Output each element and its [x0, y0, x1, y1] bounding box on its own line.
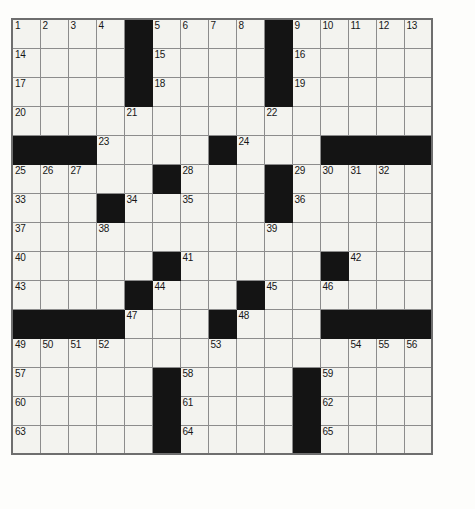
crossword-cell[interactable]: 41 — [180, 251, 208, 280]
crossword-cell[interactable] — [40, 425, 68, 454]
crossword-cell[interactable] — [96, 280, 124, 309]
crossword-cell[interactable] — [208, 251, 236, 280]
crossword-cell[interactable] — [404, 367, 432, 396]
crossword-cell[interactable] — [376, 222, 404, 251]
crossword-cell[interactable]: 34 — [124, 193, 152, 222]
crossword-cell[interactable] — [264, 367, 292, 396]
crossword-cell[interactable]: 50 — [40, 338, 68, 367]
crossword-cell[interactable]: 30 — [320, 164, 348, 193]
crossword-cell[interactable]: 60 — [12, 396, 40, 425]
crossword-cell[interactable] — [404, 280, 432, 309]
crossword-cell[interactable] — [404, 251, 432, 280]
crossword-cell[interactable] — [264, 251, 292, 280]
crossword-cell[interactable]: 64 — [180, 425, 208, 454]
crossword-cell[interactable] — [292, 222, 320, 251]
crossword-cell[interactable] — [376, 251, 404, 280]
crossword-cell[interactable] — [236, 106, 264, 135]
crossword-cell[interactable] — [292, 135, 320, 164]
crossword-cell[interactable]: 16 — [292, 48, 320, 77]
crossword-cell[interactable] — [264, 135, 292, 164]
crossword-cell[interactable]: 14 — [12, 48, 40, 77]
crossword-cell[interactable] — [376, 193, 404, 222]
crossword-cell[interactable]: 44 — [152, 280, 180, 309]
crossword-cell[interactable] — [320, 48, 348, 77]
crossword-cell[interactable] — [236, 77, 264, 106]
crossword-cell[interactable] — [68, 251, 96, 280]
crossword-cell[interactable]: 57 — [12, 367, 40, 396]
crossword-cell[interactable]: 56 — [404, 338, 432, 367]
crossword-cell[interactable] — [236, 425, 264, 454]
crossword-cell[interactable] — [236, 193, 264, 222]
crossword-cell[interactable] — [180, 48, 208, 77]
crossword-cell[interactable]: 61 — [180, 396, 208, 425]
crossword-cell[interactable]: 36 — [292, 193, 320, 222]
crossword-cell[interactable]: 48 — [236, 309, 264, 338]
crossword-cell[interactable] — [96, 367, 124, 396]
crossword-cell[interactable]: 37 — [12, 222, 40, 251]
crossword-cell[interactable]: 5 — [152, 19, 180, 48]
crossword-cell[interactable]: 58 — [180, 367, 208, 396]
crossword-cell[interactable] — [68, 193, 96, 222]
crossword-cell[interactable]: 51 — [68, 338, 96, 367]
crossword-cell[interactable]: 54 — [348, 338, 376, 367]
crossword-cell[interactable]: 59 — [320, 367, 348, 396]
crossword-cell[interactable] — [404, 106, 432, 135]
crossword-cell[interactable]: 39 — [264, 222, 292, 251]
crossword-cell[interactable] — [236, 251, 264, 280]
crossword-cell[interactable] — [292, 309, 320, 338]
crossword-cell[interactable] — [40, 222, 68, 251]
crossword-cell[interactable] — [348, 193, 376, 222]
crossword-cell[interactable] — [124, 425, 152, 454]
crossword-cell[interactable]: 49 — [12, 338, 40, 367]
crossword-cell[interactable] — [264, 338, 292, 367]
crossword-cell[interactable]: 12 — [376, 19, 404, 48]
crossword-cell[interactable] — [320, 222, 348, 251]
crossword-cell[interactable]: 15 — [152, 48, 180, 77]
crossword-cell[interactable] — [180, 135, 208, 164]
crossword-cell[interactable]: 2 — [40, 19, 68, 48]
crossword-cell[interactable]: 55 — [376, 338, 404, 367]
crossword-cell[interactable] — [40, 77, 68, 106]
crossword-cell[interactable] — [264, 309, 292, 338]
crossword-cell[interactable] — [180, 338, 208, 367]
crossword-cell[interactable] — [124, 367, 152, 396]
crossword-cell[interactable] — [96, 425, 124, 454]
crossword-cell[interactable] — [404, 193, 432, 222]
crossword-cell[interactable] — [208, 193, 236, 222]
crossword-cell[interactable] — [292, 251, 320, 280]
crossword-cell[interactable]: 52 — [96, 338, 124, 367]
crossword-cell[interactable]: 26 — [40, 164, 68, 193]
crossword-cell[interactable] — [376, 77, 404, 106]
crossword-cell[interactable] — [236, 338, 264, 367]
crossword-cell[interactable] — [292, 280, 320, 309]
crossword-cell[interactable] — [348, 367, 376, 396]
crossword-cell[interactable]: 38 — [96, 222, 124, 251]
crossword-cell[interactable] — [152, 222, 180, 251]
crossword-cell[interactable] — [96, 164, 124, 193]
crossword-cell[interactable]: 23 — [96, 135, 124, 164]
crossword-grid[interactable]: 1234567891011121314151617181920212223242… — [11, 18, 433, 455]
crossword-cell[interactable] — [404, 77, 432, 106]
crossword-cell[interactable] — [376, 367, 404, 396]
crossword-cell[interactable]: 18 — [152, 77, 180, 106]
crossword-cell[interactable] — [236, 164, 264, 193]
crossword-cell[interactable] — [68, 280, 96, 309]
crossword-cell[interactable] — [40, 48, 68, 77]
crossword-cell[interactable]: 27 — [68, 164, 96, 193]
crossword-cell[interactable]: 28 — [180, 164, 208, 193]
crossword-cell[interactable]: 63 — [12, 425, 40, 454]
crossword-cell[interactable] — [40, 106, 68, 135]
crossword-cell[interactable] — [124, 338, 152, 367]
crossword-cell[interactable]: 11 — [348, 19, 376, 48]
crossword-cell[interactable] — [96, 48, 124, 77]
crossword-cell[interactable] — [180, 106, 208, 135]
crossword-cell[interactable] — [124, 164, 152, 193]
crossword-cell[interactable] — [180, 222, 208, 251]
crossword-cell[interactable] — [292, 106, 320, 135]
crossword-cell[interactable] — [320, 77, 348, 106]
crossword-cell[interactable] — [208, 106, 236, 135]
crossword-cell[interactable]: 8 — [236, 19, 264, 48]
crossword-cell[interactable] — [96, 396, 124, 425]
crossword-cell[interactable] — [96, 106, 124, 135]
crossword-cell[interactable]: 22 — [264, 106, 292, 135]
